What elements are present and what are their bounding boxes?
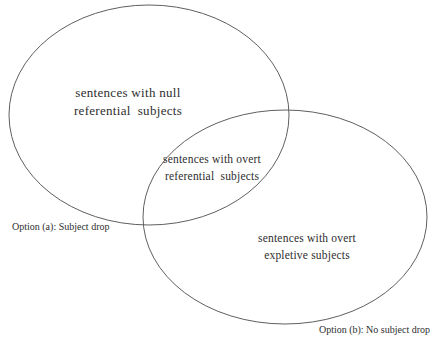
right-set-label-line2: expletive subjects xyxy=(217,247,397,264)
intersection-label-line1: sentences with overt xyxy=(122,151,302,168)
right-set-label: sentences with overt expletive subjects xyxy=(217,230,397,264)
left-set-label: sentences with null referential subjects xyxy=(38,84,218,120)
right-set-label-line1: sentences with overt xyxy=(217,230,397,247)
venn-diagram-figure: sentences with null referential subjects… xyxy=(0,0,432,339)
intersection-label-line2: referential subjects xyxy=(122,168,302,185)
intersection-label: sentences with overt referential subject… xyxy=(122,151,302,185)
option-a-caption: Option (a): Subject drop xyxy=(12,221,109,233)
left-set-label-line2: referential subjects xyxy=(38,102,218,120)
option-b-caption: Option (b): No subject drop xyxy=(319,324,430,336)
left-set-label-line1: sentences with null xyxy=(38,84,218,102)
